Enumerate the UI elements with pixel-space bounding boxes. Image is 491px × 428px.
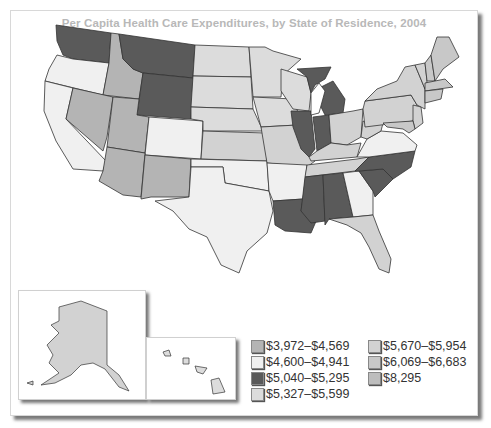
legend-swatch (251, 372, 264, 385)
legend-item: $4,600–$4,941 (251, 355, 349, 369)
state-de-md (383, 121, 415, 133)
legend-label: $5,040–$5,295 (266, 371, 349, 385)
state-me (431, 37, 459, 81)
legend-item: $5,327–$5,599 (251, 387, 349, 401)
hawaii-inset (146, 337, 236, 400)
alaska-inset (18, 290, 146, 400)
state-oh (329, 109, 363, 145)
legend-label: $4,600–$4,941 (266, 355, 349, 369)
legend-label: $8,295 (383, 371, 421, 385)
state-ks (201, 131, 267, 161)
legend-label: $6,069–$6,683 (383, 355, 466, 369)
state-nd (193, 45, 251, 77)
state-ms (301, 175, 325, 223)
legend-swatch (368, 372, 381, 385)
legend-label: $5,670–$5,954 (383, 339, 466, 353)
legend-item: $6,069–$6,683 (368, 355, 466, 369)
state-wy (137, 73, 193, 119)
state-az (99, 147, 145, 197)
legend-swatch (368, 340, 381, 353)
state-ct-ri (425, 89, 443, 103)
legend-item: $8,295 (368, 371, 421, 385)
legend-swatch (368, 356, 381, 369)
state-ar (267, 163, 307, 201)
legend-label: $3,972–$4,569 (266, 339, 349, 353)
state-co (145, 117, 203, 159)
legend-swatch (251, 388, 264, 401)
state-sd (191, 76, 253, 109)
map-frame: Per Capita Health Care Expenditures, by … (10, 10, 478, 416)
state-nm (141, 155, 191, 199)
legend-swatch (251, 340, 264, 353)
legend-label: $5,327–$5,599 (266, 387, 349, 401)
legend-item: $3,972–$4,569 (251, 339, 349, 353)
state-fl (329, 215, 391, 273)
legend-item: $5,670–$5,954 (368, 339, 466, 353)
legend-item: $5,040–$5,295 (251, 371, 349, 385)
state-hi (147, 338, 235, 399)
legend-swatch (251, 356, 264, 369)
state-ak (19, 291, 145, 399)
